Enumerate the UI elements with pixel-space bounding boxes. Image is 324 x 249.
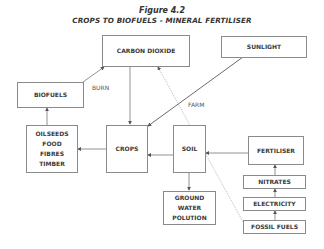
node-label: CARBON DIOXIDE: [117, 46, 176, 56]
node-carbon-dioxide: CARBON DIOXIDE: [102, 35, 190, 67]
node-biofuels: BIOFUELS: [17, 82, 84, 108]
node-soil: SOIL: [173, 125, 206, 173]
node-oilseeds-food-fibres-timber: OILSEEDS FOOD FIBRES TIMBER: [26, 125, 78, 173]
node-label-line: POLUTION: [172, 213, 206, 223]
edge-label-burn: BURN: [92, 84, 109, 91]
node-label-line: OILSEEDS: [36, 129, 69, 139]
node-nitrates: NITRATES: [243, 175, 306, 189]
node-sunlight: SUNLIGHT: [221, 36, 307, 58]
arrow-sunlight-to-crops: [148, 57, 243, 126]
node-label-line: WATER: [178, 203, 201, 213]
arrow-biofuels-to-co2: [83, 67, 104, 82]
node-fossil-fuels: FOSSIL FUELS: [243, 220, 306, 234]
node-crops: CROPS: [106, 125, 148, 173]
node-label: NITRATES: [258, 177, 291, 187]
node-label: ELECTRICITY: [253, 199, 295, 209]
node-label: FERTILISER: [257, 146, 295, 156]
node-ground-water-polution: GROUND WATER POLUTION: [163, 191, 216, 225]
node-label: SUNLIGHT: [247, 42, 281, 52]
node-label: FOSSIL FUELS: [251, 222, 298, 232]
node-label: BIOFUELS: [34, 90, 67, 100]
node-label-line: FOOD: [42, 139, 61, 149]
node-fertiliser: FERTILISER: [248, 136, 304, 165]
node-label: SOIL: [182, 144, 197, 154]
edge-label-farm: FARM: [188, 101, 204, 108]
node-label-line: GROUND: [175, 193, 205, 203]
node-label: CROPS: [116, 144, 139, 154]
node-electricity: ELECTRICITY: [243, 197, 306, 211]
node-label-line: TIMBER: [39, 159, 65, 169]
node-label-line: FIBRES: [40, 149, 64, 159]
